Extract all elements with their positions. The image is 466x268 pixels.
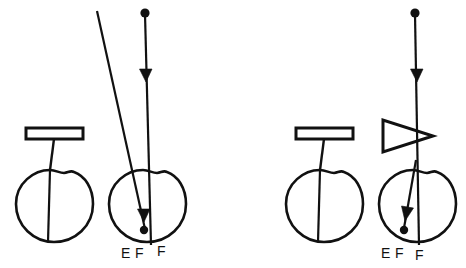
eye-outline-shape (286, 170, 363, 242)
label-f-near: F (395, 245, 404, 261)
label-f-far: F (415, 247, 424, 263)
ray-origin-dot (410, 8, 419, 17)
left-panel: E F F (16, 8, 186, 261)
figure-root: E F F (0, 0, 466, 268)
rectangle-plate-icon (296, 128, 353, 139)
right-unaided-eye-group (286, 128, 363, 242)
rectangle-plate-icon (26, 128, 83, 139)
arrowhead-down-icon (411, 69, 424, 82)
label-f-near: F (135, 245, 144, 261)
ray-origin-dot (140, 8, 149, 17)
label-e: E (381, 245, 390, 261)
label-f-far: F (157, 243, 166, 259)
focus-node-dot (400, 226, 408, 234)
plate-stem-line (320, 139, 324, 170)
label-e: E (121, 245, 130, 261)
triangular-prism-icon (383, 120, 433, 152)
plate-stem-line (50, 139, 54, 170)
left-unaided-eye-group (16, 128, 93, 242)
optical-ray-diagram: E F F (0, 0, 466, 268)
eye-outline-shape (16, 170, 93, 242)
focus-node-dot (140, 226, 148, 234)
right-panel: E F F (286, 8, 456, 263)
arrowhead-down-icon (140, 69, 153, 82)
